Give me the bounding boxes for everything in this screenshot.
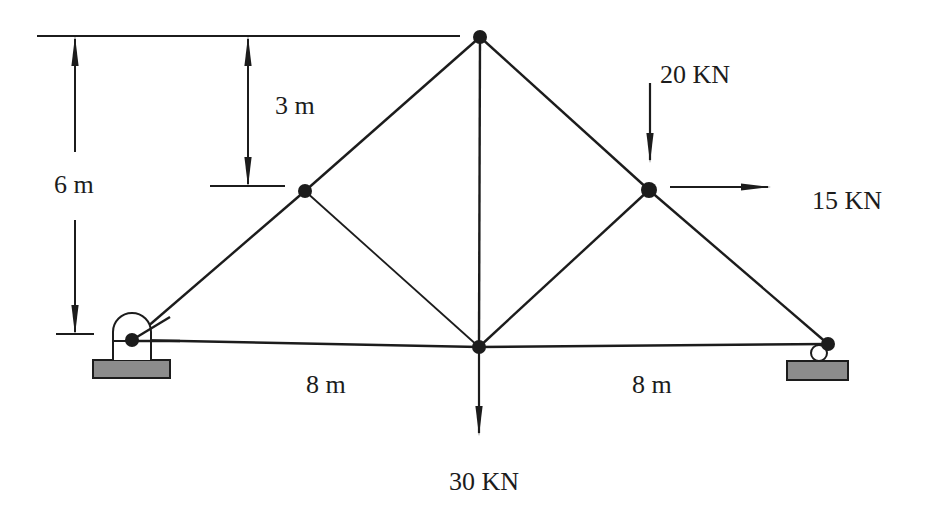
member-DF bbox=[479, 190, 649, 347]
dimension-lines bbox=[37, 36, 460, 334]
member-AB bbox=[132, 191, 305, 340]
pin-support-ground bbox=[93, 360, 170, 378]
dimension-6m-label: 6 m bbox=[54, 172, 94, 198]
load-30kn-label: 30 KN bbox=[449, 469, 519, 495]
load-20kn-label: 20 KN bbox=[660, 62, 730, 88]
member-CD bbox=[480, 37, 649, 190]
member-BC bbox=[305, 37, 480, 191]
node-B bbox=[298, 184, 312, 198]
member-AF bbox=[132, 340, 479, 347]
roller-support-right bbox=[787, 345, 848, 380]
dimension-left-span-label: 8 m bbox=[306, 372, 346, 398]
member-BF bbox=[305, 191, 479, 347]
pin-support-left bbox=[93, 313, 180, 378]
roller-support-ground bbox=[787, 361, 848, 380]
node-F bbox=[472, 340, 486, 354]
node-D bbox=[641, 182, 657, 198]
load-15kn-label: 15 KN bbox=[812, 188, 882, 214]
node-A bbox=[125, 333, 139, 347]
truss-diagram bbox=[0, 0, 936, 516]
member-CF bbox=[479, 37, 480, 347]
dimension-3m-label: 3 m bbox=[275, 93, 315, 119]
node-E bbox=[821, 337, 835, 351]
member-DE bbox=[649, 190, 828, 344]
load-arrows bbox=[479, 83, 768, 433]
dimension-right-span-label: 8 m bbox=[632, 372, 672, 398]
node-C bbox=[473, 30, 487, 44]
member-FE bbox=[479, 344, 828, 347]
